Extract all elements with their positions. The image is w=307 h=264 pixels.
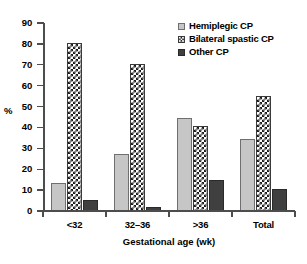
x-axis-tick — [294, 211, 295, 217]
y-axis-tick-label: 90 — [6, 18, 32, 27]
y-axis-tick-label: 30 — [6, 143, 32, 152]
x-axis-tick — [105, 211, 106, 217]
legend-item: Bilateral spastic CP — [178, 33, 274, 45]
bar-3236-series1 — [130, 64, 146, 211]
chart-legend: Hemiplegic CPBilateral spastic CPOther C… — [178, 20, 274, 59]
x-axis-tick-label: Total — [232, 220, 295, 230]
bar-36-series0 — [177, 118, 193, 211]
y-axis-tick-label: 70 — [6, 60, 32, 69]
y-axis-tick-label: 0 — [6, 206, 32, 215]
bar-Total-series1 — [256, 96, 272, 212]
legend-item-label: Other CP — [189, 47, 229, 57]
y-axis-tick-label: 20 — [6, 164, 32, 173]
x-axis-tick — [231, 211, 232, 217]
light-gray-square-icon — [178, 23, 185, 30]
bar-3236-series0 — [114, 154, 130, 211]
bar-36-series2 — [209, 180, 225, 211]
bar-32-series0 — [51, 183, 67, 211]
y-axis-tick-label: 10 — [6, 185, 32, 194]
bar-chart: % 0102030405060708090 <3232–36>36Total G… — [0, 0, 307, 264]
bar-32-series1 — [67, 43, 83, 211]
legend-item-label: Hemiplegic CP — [189, 21, 253, 31]
x-axis-tick-label: <32 — [43, 220, 106, 230]
bar-Total-series2 — [272, 189, 288, 211]
bar-Total-series0 — [240, 139, 256, 211]
legend-item: Other CP — [178, 46, 274, 58]
y-axis-tick-label: 50 — [6, 102, 32, 111]
y-axis-tick-label: 40 — [6, 122, 32, 131]
legend-item: Hemiplegic CP — [178, 20, 274, 32]
x-axis-tick — [42, 211, 43, 217]
x-axis-title: Gestational age (wk) — [43, 237, 295, 247]
y-axis-tick-label: 60 — [6, 81, 32, 90]
x-axis-tick — [168, 211, 169, 217]
y-axis-tick-label: 80 — [6, 39, 32, 48]
bar-36-series1 — [193, 126, 209, 211]
dark-gray-square-icon — [178, 49, 185, 56]
legend-item-label: Bilateral spastic CP — [189, 34, 274, 44]
checkered-square-icon — [178, 36, 185, 43]
x-axis-tick-label: 32–36 — [106, 220, 169, 230]
x-axis-tick-label: >36 — [169, 220, 232, 230]
